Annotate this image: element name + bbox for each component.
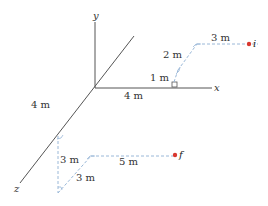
final-point-label: f (178, 149, 185, 160)
final-segment-1-label: 3 m (60, 154, 80, 165)
initial-segment-3-label: 3 m (211, 32, 231, 43)
initial-segment-1-label: 1 m (150, 72, 170, 83)
final-segment-3-label: 5 m (119, 156, 139, 167)
right-angle-marker (172, 82, 177, 87)
final-segment-2-label: 3 m (76, 172, 96, 183)
initial-point-label: i (253, 38, 256, 49)
x-axis-label: x (214, 82, 220, 93)
initial-point (247, 42, 251, 46)
final-point (173, 153, 177, 157)
displacement-diagram: y x z 4 m 4 m 1 m 2 m 3 m i 3 m 3 m 5 m … (0, 0, 268, 206)
z-distance-label: 4 m (31, 99, 51, 110)
y-axis-label: y (92, 10, 99, 21)
z-axis-label: z (13, 183, 20, 194)
initial-path (174, 44, 258, 82)
initial-segment-2-label: 2 m (163, 49, 183, 60)
x-distance-label: 4 m (124, 90, 144, 101)
